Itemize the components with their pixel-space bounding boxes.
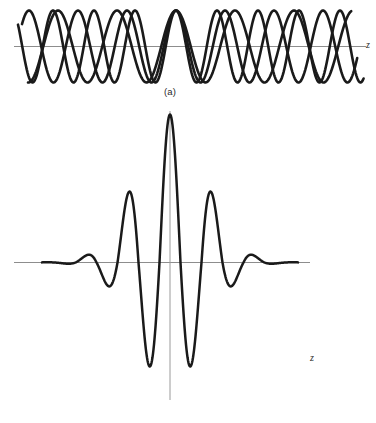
figure-container: z (a) z (b)	[0, 0, 376, 423]
panel-b-plot	[0, 100, 376, 423]
panel-a-plot	[0, 0, 376, 100]
panel-caption-a: (a)	[164, 87, 176, 97]
panel-a-superposed-waves: z (a)	[0, 0, 376, 100]
panel-b-wave-packet: z (b)	[0, 100, 376, 423]
axis-label-z-a: z	[366, 40, 370, 50]
axis-label-z-b: z	[310, 353, 314, 363]
